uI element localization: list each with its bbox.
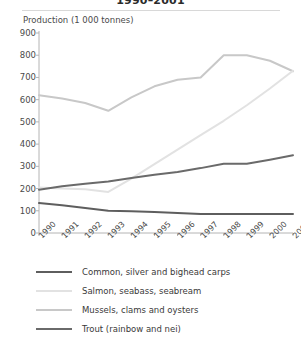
series-line xyxy=(39,203,293,214)
chart-legend: Common, silver and bighead carpsSalmon, … xyxy=(0,262,301,338)
legend-color-swatch xyxy=(36,290,72,292)
series-line xyxy=(39,155,293,189)
legend-item[interactable]: Trout (rainbow and nei) xyxy=(0,319,301,338)
legend-label: Trout (rainbow and nei) xyxy=(82,324,181,334)
legend-label: Common, silver and bighead carps xyxy=(82,267,230,277)
legend-item[interactable]: Salmon, seabass, seabream xyxy=(0,281,301,300)
legend-color-swatch xyxy=(36,271,72,273)
legend-label: Salmon, seabass, seabream xyxy=(82,286,201,296)
chart-title: 1990–2001 xyxy=(0,0,301,6)
legend-color-swatch xyxy=(36,309,72,311)
x-axis-tick-labels: 1990199119921993199419951996199719981999… xyxy=(0,231,301,265)
legend-color-swatch xyxy=(36,328,72,330)
line-chart-svg xyxy=(0,26,301,236)
title-divider xyxy=(22,10,280,11)
y-axis-title: Production (1 000 tonnes) xyxy=(23,15,134,25)
plot-area xyxy=(0,26,301,236)
series-line xyxy=(39,55,293,111)
legend-item[interactable]: Common, silver and bighead carps xyxy=(0,262,301,281)
legend-item[interactable]: Mussels, clams and oysters xyxy=(0,300,301,319)
axis-frame xyxy=(39,31,293,233)
chart-title-clip: 1990–2001 xyxy=(0,0,301,10)
legend-label: Mussels, clams and oysters xyxy=(82,305,199,315)
